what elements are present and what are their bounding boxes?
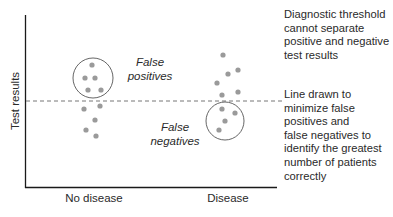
data-dot — [98, 87, 103, 92]
false-positives-label-line1: False — [136, 56, 164, 68]
data-dot — [89, 62, 94, 67]
data-dot — [220, 52, 225, 57]
data-dot — [214, 80, 219, 85]
false-negatives-label-line2: negatives — [150, 135, 199, 147]
data-dot — [235, 89, 240, 94]
x-label-no-disease: No disease — [65, 192, 123, 204]
data-dot — [235, 67, 240, 72]
false-positives-label-line2: positives — [127, 70, 173, 82]
disease-dots — [214, 52, 240, 132]
data-dot — [93, 133, 98, 138]
data-dot — [225, 71, 230, 76]
y-axis-label: Test results — [9, 72, 21, 130]
threshold-problem-note: Diagnostic threshold cannot separate pos… — [284, 8, 389, 62]
data-dot — [81, 106, 86, 111]
data-dot — [232, 110, 237, 115]
data-dot — [222, 118, 227, 123]
false-negatives-label-line1: False — [161, 121, 189, 133]
data-dot — [216, 127, 221, 132]
data-dot — [219, 92, 224, 97]
data-dot — [219, 106, 224, 111]
x-label-disease: Disease — [207, 192, 249, 204]
data-dot — [85, 87, 90, 92]
data-dot — [92, 75, 97, 80]
data-dot — [92, 117, 97, 122]
data-dot — [83, 127, 88, 132]
data-dot — [97, 103, 102, 108]
data-dot — [82, 75, 87, 80]
threshold-line-note: Line drawn to minimize false positives a… — [284, 88, 382, 183]
